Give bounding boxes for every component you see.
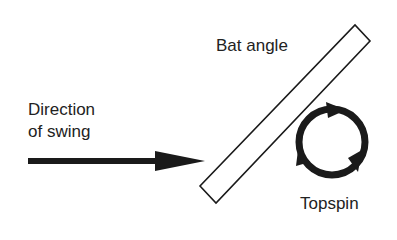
- direction-label-line1: Direction: [28, 100, 95, 120]
- direction-label-line2: of swing: [28, 122, 90, 142]
- swing-direction-arrow: [28, 151, 205, 171]
- topspin-label: Topspin: [300, 194, 359, 214]
- bat-angle-label: Bat angle: [216, 36, 288, 56]
- topspin-icon: [296, 102, 365, 175]
